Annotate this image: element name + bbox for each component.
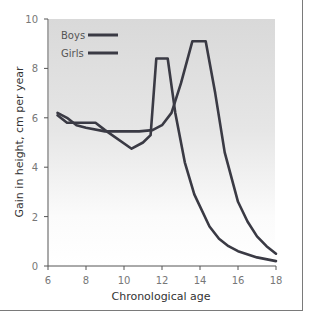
x-tick-label: 18 [270, 275, 283, 286]
figure-border-right [302, 0, 303, 311]
x-tick-label: 6 [45, 275, 51, 286]
y-tick-label: 0 [32, 261, 38, 272]
x-tick-label: 12 [156, 275, 169, 286]
y-tick-label: 4 [32, 162, 38, 173]
y-axis-label: Gain in height, cm per year [13, 66, 26, 217]
x-tick-label: 16 [232, 275, 245, 286]
chart-frame: 0246810681012141618 BoysGirls Gain in he… [0, 0, 309, 321]
legend-label-boys: Boys [61, 30, 85, 41]
figure-caption-fragment [0, 0, 160, 4]
y-tick-label: 6 [32, 113, 38, 124]
legend-label-girls: Girls [61, 48, 84, 59]
x-axis-label: Chronological age [111, 290, 210, 303]
y-tick-label: 2 [32, 212, 38, 223]
x-tick-label: 10 [118, 275, 131, 286]
figure-border-bottom [0, 310, 303, 311]
x-tick-label: 14 [194, 275, 207, 286]
y-tick-label: 10 [25, 14, 38, 25]
y-tick-label: 8 [32, 63, 38, 74]
x-tick-label: 8 [83, 275, 89, 286]
growth-velocity-chart: 0246810681012141618 BoysGirls Gain in he… [0, 0, 309, 321]
